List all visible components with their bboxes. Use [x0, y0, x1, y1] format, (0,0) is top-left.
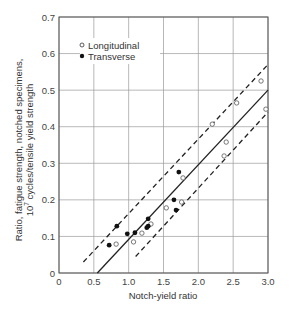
x-tick-label: 0 [56, 276, 61, 287]
x-axis-label: Notch-yield ratio [129, 290, 198, 301]
y-tick-label: 0.3 [42, 158, 55, 169]
longitudinal-point [179, 200, 183, 204]
transverse-point [144, 225, 149, 230]
longitudinal-point [224, 140, 228, 144]
y-tick-label: 0 [50, 268, 55, 279]
legend-filled-circle-icon [80, 54, 84, 58]
longitudinal-point [164, 206, 168, 210]
transverse-point [176, 170, 181, 175]
fatigue-ratio-chart: 00.51.01.52.02.53.0 00.10.20.30.40.50.60… [0, 0, 289, 315]
longitudinal-point [114, 242, 118, 246]
longitudinal-point [222, 154, 226, 158]
y-tick-label: 0.6 [42, 48, 55, 59]
x-tick-label: 1.5 [157, 276, 170, 287]
longitudinal-point [234, 101, 238, 105]
y-tick-label: 0.2 [42, 194, 55, 205]
x-tick-label: 0.5 [87, 276, 100, 287]
x-tick-label: 1.0 [122, 276, 135, 287]
x-tick-label: 2.0 [192, 276, 205, 287]
x-tick-label: 3.0 [261, 276, 274, 287]
y-tick-labels: 00.10.20.30.40.50.60.7 [42, 12, 55, 279]
y-axis-label-line2: 107 cycles/tensile yield strength [23, 84, 35, 216]
x-tick-labels: 00.51.01.52.02.53.0 [56, 276, 274, 287]
longitudinal-point [259, 79, 263, 83]
transverse-point [174, 208, 179, 213]
x-tick-label: 2.5 [227, 276, 240, 287]
longitudinal-point [140, 231, 144, 235]
legend-open-circle-icon [80, 43, 84, 47]
longitudinal-point [264, 107, 268, 111]
y-tick-label: 0.7 [42, 12, 55, 23]
transverse-point [125, 231, 130, 236]
legend-transverse-label: Transverse [88, 51, 135, 62]
mean-fit-line [97, 90, 268, 273]
legend: Longitudinal Transverse [80, 38, 160, 64]
longitudinal-point [210, 122, 214, 126]
transverse-point [114, 224, 119, 229]
transverse-point [107, 243, 112, 248]
transverse-point [146, 216, 151, 221]
y-tick-label: 0.5 [42, 85, 55, 96]
y-tick-label: 0.1 [42, 231, 55, 242]
y-axis-label-line1: Ratio, fatigue strength, notched specime… [13, 59, 24, 242]
transverse-point [172, 197, 177, 202]
longitudinal-point [131, 240, 135, 244]
y-axis-label: Ratio, fatigue strength, notched specime… [13, 59, 35, 242]
transverse-point [133, 230, 138, 235]
legend-longitudinal-label: Longitudinal [88, 40, 139, 51]
y-tick-label: 0.4 [42, 121, 55, 132]
fit-lines [83, 65, 268, 273]
longitudinal-point [181, 176, 185, 180]
